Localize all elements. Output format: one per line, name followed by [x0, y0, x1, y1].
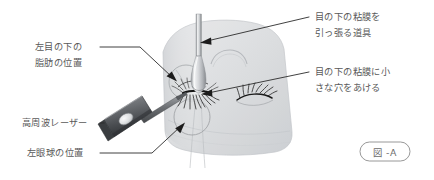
face-silhouette: [163, 20, 292, 155]
annotation-rf-laser: 高周波レーザー: [22, 117, 88, 128]
figure-caption-badge: 図 -A: [360, 142, 410, 161]
annotation-mucosa-incision: 目の下の粘膜に小 さな穴をあける: [315, 66, 390, 93]
figure-container: 目の下の粘膜を 引っ張る道具 目の下の粘膜に小 さな穴をあける 左目の下の 脂肪…: [0, 0, 434, 180]
annotation-fat-position: 左目の下の 脂肪の位置: [35, 41, 82, 68]
annotation-eyeball-position: 左眼球の位置: [27, 147, 83, 158]
annotation-eyeball-position-line1: 左眼球の位置: [27, 147, 83, 158]
annotation-retractor-tool-line2: 引っ張る道具: [315, 27, 371, 38]
annotation-mucosa-incision-line1: 目の下の粘膜に小: [315, 66, 390, 77]
annotation-retractor-tool: 目の下の粘膜を 引っ張る道具: [315, 11, 381, 38]
annotation-mucosa-incision-line2: さな穴をあける: [315, 82, 381, 93]
annotation-fat-position-line1: 左目の下の: [35, 41, 82, 52]
medical-illustration-figure: 目の下の粘膜を 引っ張る道具 目の下の粘膜に小 さな穴をあける 左目の下の 脂肪…: [0, 0, 434, 180]
figure-caption-label: 図 -A: [373, 147, 397, 158]
annotation-fat-position-line2: 脂肪の位置: [35, 57, 82, 68]
annotation-rf-laser-line1: 高周波レーザー: [22, 117, 88, 128]
annotation-retractor-tool-line1: 目の下の粘膜を: [315, 11, 381, 22]
